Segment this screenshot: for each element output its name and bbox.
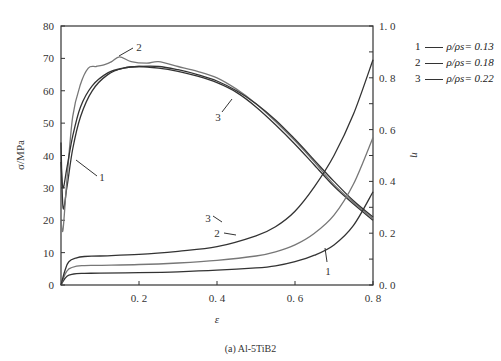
- legend-id: 3: [415, 72, 421, 84]
- x-tick-label: 0. 2: [131, 292, 148, 304]
- annotation-label: 2: [136, 41, 142, 53]
- legend-id: 1: [415, 40, 421, 52]
- y2-tick-label: 0. 0: [379, 279, 396, 291]
- annotation-leader: [213, 216, 222, 222]
- legend-item-2: 2ρ/ρs= 0.18: [415, 54, 494, 70]
- y-tick-label: 70: [43, 52, 55, 64]
- data-series: [61, 57, 373, 285]
- legend-item-1: 1ρ/ρs= 0.13: [415, 38, 494, 54]
- annotation-label: 1: [325, 265, 331, 277]
- x-tick-label: 0. 4: [209, 292, 226, 304]
- axis-ticks: 010203040506070800. 00. 20. 40. 60. 81. …: [43, 20, 396, 304]
- y-tick-label: 60: [43, 85, 55, 97]
- legend-line: [425, 47, 443, 48]
- annotation-leader: [222, 99, 232, 112]
- legend-id: 2: [415, 56, 421, 68]
- y2-tick-label: 0. 6: [379, 124, 396, 136]
- legend-label: ρ/ρs= 0.18: [447, 56, 494, 68]
- y2-tick-label: 1. 0: [379, 20, 396, 32]
- y-tick-label: 20: [43, 214, 55, 226]
- annotation-leader: [224, 233, 236, 235]
- legend-item-3: 3ρ/ρs= 0.22: [415, 70, 494, 86]
- x-tick-label: 0. 8: [365, 292, 382, 304]
- annotation-label: 3: [215, 111, 221, 123]
- y-tick-label: 10: [43, 247, 55, 259]
- y-tick-label: 80: [43, 20, 55, 32]
- y2-axis-title: η: [410, 152, 422, 157]
- annotation-leader: [119, 48, 133, 56]
- y-axis-title: σ/MPa: [14, 140, 26, 170]
- x-axis-title: ε: [215, 313, 220, 325]
- x-tick-label: 0. 6: [287, 292, 304, 304]
- legend-line: [425, 79, 443, 80]
- annotation-label: 1: [99, 171, 105, 183]
- y2-tick-label: 0. 2: [379, 227, 396, 239]
- legend: 1ρ/ρs= 0.13 2ρ/ρs= 0.18 3ρ/ρs= 0.22: [415, 38, 494, 86]
- y-tick-label: 50: [43, 117, 55, 129]
- y-tick-label: 40: [43, 150, 55, 162]
- annotation-label: 3: [205, 212, 211, 224]
- series-line-3: [61, 66, 373, 217]
- legend-line: [425, 63, 443, 64]
- annotation-label: 2: [214, 227, 220, 239]
- y2-tick-label: 0. 4: [379, 175, 396, 187]
- figure-caption: (a) Al-5TiB2: [0, 343, 501, 354]
- series-line-5: [61, 137, 373, 285]
- y2-tick-label: 0. 8: [379, 72, 396, 84]
- annotation-leader: [76, 160, 97, 176]
- series-line-1: [61, 67, 373, 221]
- legend-label: ρ/ρs= 0.22: [447, 72, 494, 84]
- y-tick-label: 30: [43, 182, 55, 194]
- legend-label: ρ/ρs= 0.13: [447, 40, 494, 52]
- y-tick-label: 0: [49, 279, 55, 291]
